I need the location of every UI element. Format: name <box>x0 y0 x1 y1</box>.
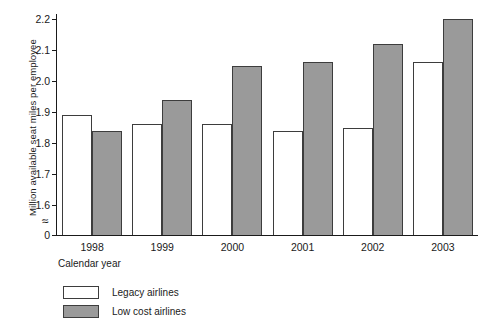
bar-legacy-1999[interactable] <box>132 124 162 235</box>
x-tick-label-1998: 1998 <box>57 241 127 253</box>
y-tick-label-1-7: 1.7 <box>35 169 50 180</box>
x-tick-label-2003: 2003 <box>408 241 478 253</box>
y-tick-label-0: 0 <box>44 230 50 241</box>
x-tick-label-1999: 1999 <box>127 241 197 253</box>
bar-group-1999: 1999 <box>127 10 197 235</box>
bar-lowcost-1998[interactable] <box>92 131 122 235</box>
bar-chart: Million available seat miles per employe… <box>0 0 497 335</box>
bar-lowcost-2000[interactable] <box>232 66 262 236</box>
bar-group-2001: 2001 <box>268 10 338 235</box>
bar-group-2003: 2003 <box>408 10 478 235</box>
legend-swatch-legacy <box>63 286 99 299</box>
bar-legacy-2002[interactable] <box>343 128 373 236</box>
legend-item-legacy[interactable]: Legacy airlines <box>63 283 186 302</box>
bar-lowcost-2003[interactable] <box>443 19 473 235</box>
y-tick-label-1-9: 1.9 <box>35 107 50 118</box>
y-tick-mark <box>52 81 56 82</box>
y-tick-mark <box>52 112 56 113</box>
y-tick-label-1-6: 1.6 <box>35 200 50 211</box>
bar-groups: 199819992000200120022003 <box>57 10 478 235</box>
x-tick-label-2000: 2000 <box>197 241 267 253</box>
y-tick-mark <box>52 19 56 20</box>
y-tick-label-2-0: 2.0 <box>35 76 50 87</box>
bar-group-2002: 2002 <box>338 10 408 235</box>
chart-legend: Legacy airlinesLow cost airlines <box>63 283 186 321</box>
bar-legacy-2000[interactable] <box>202 124 232 235</box>
legend-label-legacy: Legacy airlines <box>112 287 179 298</box>
y-tick-mark <box>52 143 56 144</box>
legend-item-lowcost[interactable]: Low cost airlines <box>63 302 186 321</box>
bar-legacy-2001[interactable] <box>273 131 303 235</box>
x-axis-title: Calendar year <box>58 258 121 269</box>
y-tick-mark <box>52 50 56 51</box>
y-tick-label-1-8: 1.8 <box>35 138 50 149</box>
bar-group-2000: 2000 <box>197 10 267 235</box>
axis-break-icon: ≈ <box>42 215 50 228</box>
y-tick-label-2-2: 2.2 <box>35 14 50 25</box>
y-tick-mark <box>52 174 56 175</box>
bar-legacy-2003[interactable] <box>413 62 443 235</box>
x-tick-label-2002: 2002 <box>338 241 408 253</box>
bar-lowcost-2002[interactable] <box>373 44 403 235</box>
bar-group-1998: 1998 <box>57 10 127 235</box>
legend-swatch-lowcost <box>63 305 99 318</box>
y-tick-mark <box>52 205 56 206</box>
y-tick-label-2-1: 2.1 <box>35 45 50 56</box>
y-tick-mark <box>52 235 56 236</box>
x-tick-label-2001: 2001 <box>268 241 338 253</box>
bar-lowcost-1999[interactable] <box>162 100 192 235</box>
bar-legacy-1998[interactable] <box>62 115 92 235</box>
legend-label-lowcost: Low cost airlines <box>112 306 186 317</box>
bar-lowcost-2001[interactable] <box>303 62 333 235</box>
plot-area: 2.22.12.01.91.81.71.60 ≈ 199819992000200… <box>56 10 478 236</box>
x-axis-line <box>56 235 478 236</box>
